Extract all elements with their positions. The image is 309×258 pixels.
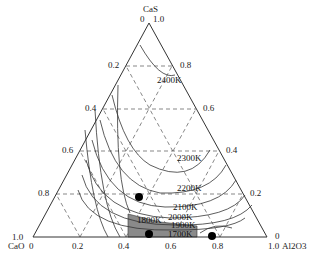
isotherm-label: 1700K	[168, 229, 193, 239]
bottom-tick: 0.8	[212, 241, 224, 251]
left-tick: 0.2	[108, 60, 119, 70]
bottom-tick: 0.6	[165, 241, 177, 251]
left-tick: 0.8	[38, 188, 50, 198]
right-tick: 0.4	[226, 145, 238, 155]
bottom-tick: 0.2	[72, 241, 83, 251]
left-tick: 0.4	[85, 103, 97, 113]
isotherm-label: 2100K	[173, 202, 198, 212]
vertex-label-cas: CaS	[143, 4, 158, 14]
right-tick: 0.2	[250, 188, 261, 198]
vertex-label-cao: CaO	[8, 241, 25, 251]
isotherm-curves	[78, 45, 252, 237]
right-bottom-value: 1.0	[268, 241, 280, 251]
data-point	[208, 232, 216, 240]
vertex-label-al2o3: Al2O3	[282, 241, 307, 251]
isotherm-label: 2200K	[177, 183, 202, 193]
isotherm-label: 1800K	[137, 215, 162, 225]
right-value: 0	[275, 231, 280, 241]
right-tick: 0.8	[180, 60, 192, 70]
left-bottom-value: 0	[29, 241, 34, 251]
ternary-diagram: CaS 0 1.0 1.0 CaO 0 0 1.0 Al2O3 0.2 0.4 …	[0, 0, 309, 258]
bottom-tick: 0.4	[118, 241, 130, 251]
right-tick: 0.6	[203, 103, 215, 113]
isotherm-label: 2300K	[177, 153, 202, 163]
data-point	[135, 193, 143, 201]
grid-lines	[56, 66, 243, 237]
top-left-value: 0	[140, 14, 145, 24]
data-point	[145, 230, 153, 238]
left-tick: 0.6	[62, 145, 74, 155]
isotherm-label: 2400K	[157, 75, 182, 85]
top-right-value: 1.0	[153, 14, 165, 24]
